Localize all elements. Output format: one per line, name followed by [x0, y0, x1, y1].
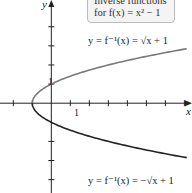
- x-axis-label: x: [186, 105, 191, 117]
- series-label-lower: y = f⁻¹(x) = −√x + 1: [88, 174, 174, 186]
- plot-area: [0, 0, 192, 193]
- title-line-2: for f(x) = x² − 1: [94, 7, 174, 19]
- y-axis-arrow: [48, 0, 54, 7]
- chart: Inverse functions for f(x) = x² − 1 y x …: [0, 0, 192, 193]
- x-tick-label-1: 1: [74, 107, 79, 118]
- y-tick-label-1: 1: [48, 76, 53, 87]
- series-label-upper: y = f⁻¹(x) = √x + 1: [88, 34, 168, 46]
- curve-upper: [32, 49, 186, 103]
- curve-lower: [32, 103, 186, 157]
- title-line-1: Inverse functions: [94, 0, 174, 7]
- title-box: Inverse functions for f(x) = x² − 1: [87, 0, 175, 23]
- y-axis-label: y: [42, 0, 47, 10]
